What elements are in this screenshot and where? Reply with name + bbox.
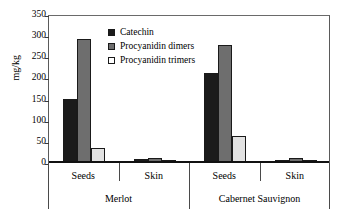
legend-label: Procyanidin trimers <box>120 55 195 65</box>
y-axis-label: mg/kg <box>10 67 21 81</box>
legend-item[interactable]: Procyanidin dimers <box>108 40 195 52</box>
bar-procyanidin-dimers[interactable] <box>218 45 232 162</box>
y-axis-tick-labels: 050100150200250300350 <box>22 15 46 163</box>
bar-group-bars <box>261 16 332 162</box>
x-tick-label-skin: Skin <box>260 170 331 181</box>
legend-label: Procyanidin dimers <box>120 41 194 51</box>
bar-group <box>261 16 332 162</box>
x-group-label: Merlot <box>48 193 189 204</box>
bar-group-bars <box>190 16 261 162</box>
y-tick-label: 50 <box>22 137 46 147</box>
y-tick-label: 250 <box>22 53 46 63</box>
x-tick-label-skin: Skin <box>119 170 190 181</box>
legend-item[interactable]: Procyanidin trimers <box>108 54 195 66</box>
y-tick-label: 300 <box>22 31 46 41</box>
x-tick-label-seeds: Seeds <box>48 170 119 181</box>
bar-procyanidin-trimers[interactable] <box>91 148 105 162</box>
bar-procyanidin-trimers[interactable] <box>232 136 246 162</box>
legend-label: Catechin <box>120 27 154 37</box>
bar-group <box>190 16 261 162</box>
y-tick-label: 0 <box>22 158 46 168</box>
bar-catechin[interactable] <box>63 99 77 162</box>
chart-legend: CatechinProcyanidin dimersProcyanidin tr… <box>108 26 195 68</box>
x-tick-label-seeds: Seeds <box>189 170 260 181</box>
x-group-label: Cabernet Sauvignon <box>189 193 330 204</box>
y-tick-label: 200 <box>22 74 46 84</box>
legend-swatch-icon <box>108 57 115 64</box>
bar-chart: mg/kg 050100150200250300350 CatechinProc… <box>0 0 348 215</box>
y-tick-label: 350 <box>22 10 46 20</box>
y-tick-label: 150 <box>22 95 46 105</box>
y-tick-label: 100 <box>22 116 46 126</box>
legend-item[interactable]: Catechin <box>108 26 195 38</box>
bar-catechin[interactable] <box>204 73 218 162</box>
legend-swatch-icon <box>108 29 115 36</box>
bar-procyanidin-dimers[interactable] <box>77 39 91 162</box>
legend-swatch-icon <box>108 43 115 50</box>
